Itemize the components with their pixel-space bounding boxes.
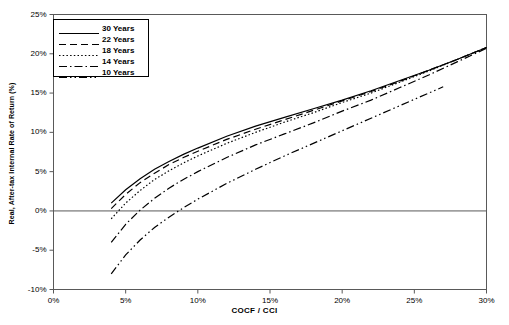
legend-swatch-icon bbox=[58, 46, 100, 55]
legend-item-14-years[interactable]: 14 Years bbox=[58, 56, 144, 66]
legend-item-10-years[interactable]: 10 Years bbox=[58, 67, 144, 77]
x-tick-label: 30% bbox=[462, 296, 509, 305]
x-tick-label: 20% bbox=[317, 296, 367, 305]
legend-item-18-years[interactable]: 18 Years bbox=[58, 45, 144, 55]
chart-container: -10%-5%0%5%10%15%20%25% 0%5%10%15%20%25%… bbox=[0, 0, 509, 325]
legend-label: 18 Years bbox=[100, 46, 134, 55]
x-tick-label: 15% bbox=[245, 296, 295, 305]
legend-label: 14 Years bbox=[100, 57, 134, 66]
y-axis-title: Real, After-tax Internal Rate of Return … bbox=[8, 49, 15, 259]
y-tick-label: -10% bbox=[0, 285, 47, 294]
legend-item-22-years[interactable]: 22 Years bbox=[58, 34, 144, 44]
legend-label: 10 Years bbox=[100, 68, 134, 77]
chart-legend: 30 Years22 Years18 Years14 Years10 Years bbox=[53, 19, 149, 77]
x-axis-title: COCF / CCI bbox=[0, 306, 509, 315]
legend-label: 22 Years bbox=[100, 35, 134, 44]
legend-label: 30 Years bbox=[100, 24, 134, 33]
legend-item-30-years[interactable]: 30 Years bbox=[58, 23, 144, 33]
legend-swatch-icon bbox=[58, 35, 100, 44]
legend-swatch-icon bbox=[58, 24, 100, 33]
y-tick-label: 25% bbox=[0, 10, 47, 19]
x-tick-label: 5% bbox=[101, 296, 151, 305]
legend-swatch-icon bbox=[58, 68, 100, 77]
x-tick-label: 0% bbox=[29, 296, 79, 305]
legend-swatch-icon bbox=[58, 57, 100, 66]
x-tick-label: 25% bbox=[389, 296, 439, 305]
x-tick-label: 10% bbox=[173, 296, 223, 305]
